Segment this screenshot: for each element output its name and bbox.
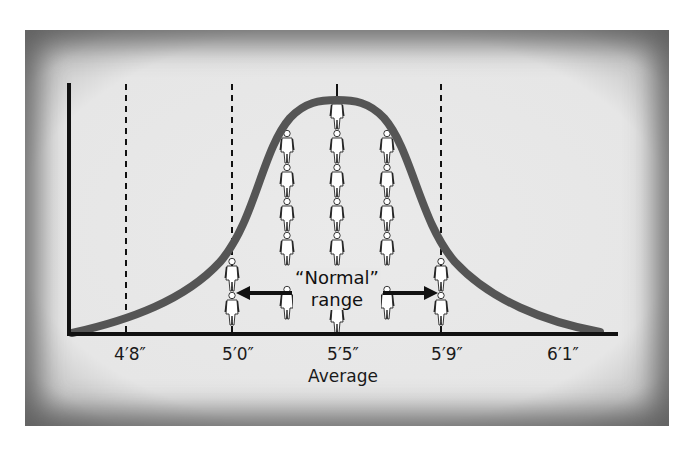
average-label: Average xyxy=(308,366,378,386)
tick-label-5ft0: 5′0″ xyxy=(222,344,254,364)
normal-range-label-line1: “Normal” xyxy=(295,268,379,288)
tick-label-6ft1: 6′1″ xyxy=(547,344,579,364)
tick-label-5ft9: 5′9″ xyxy=(431,344,463,364)
normal-range-label: “Normal” range xyxy=(293,268,381,310)
tick-label-4ft8: 4′8″ xyxy=(114,344,146,364)
normal-range-label-line2: range xyxy=(295,290,379,310)
tick-label-5ft5: 5′5″ xyxy=(327,344,359,364)
